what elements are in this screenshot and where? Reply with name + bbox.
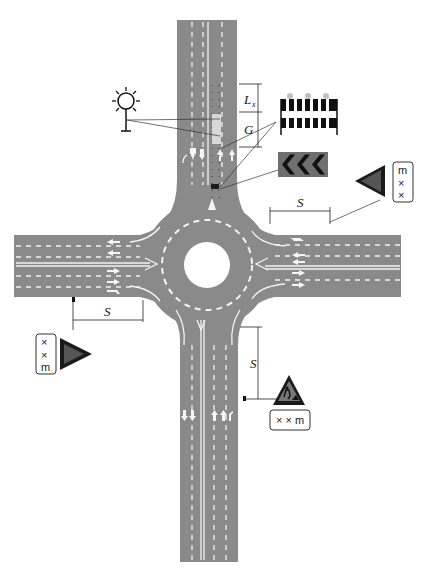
distance-plate-right: m × × bbox=[393, 162, 413, 202]
work-vehicle bbox=[212, 114, 221, 144]
plate-right-char-1: m bbox=[398, 164, 407, 176]
distance-plate-left: × × m bbox=[36, 334, 56, 374]
plate-left-char-2: × bbox=[41, 349, 47, 361]
lx-subscript: x bbox=[251, 100, 256, 109]
distance-plate-bottom: × × m bbox=[270, 410, 310, 430]
dimension-s-bottom bbox=[240, 327, 280, 401]
plate-left-char-3: m bbox=[41, 361, 50, 373]
sign-post-marker bbox=[211, 184, 219, 189]
plate-right-char-3: × bbox=[398, 189, 404, 201]
roadwork-warning-sign-icon bbox=[273, 375, 305, 405]
g-label: G bbox=[244, 122, 254, 137]
plate-left-char-1: × bbox=[41, 336, 47, 348]
roadwork-warning-sign-left bbox=[60, 338, 92, 370]
warning-light-icon bbox=[112, 87, 140, 131]
plate-bottom-text: × × m bbox=[276, 414, 304, 426]
plate-right-char-2: × bbox=[398, 177, 404, 189]
center-island bbox=[184, 242, 230, 288]
lx-label: L bbox=[243, 92, 251, 107]
s-label-top-right: S bbox=[297, 195, 304, 210]
s-label-left: S bbox=[104, 304, 111, 319]
road-barrier-icon bbox=[281, 93, 337, 135]
roadwork-warning-sign-right bbox=[355, 165, 385, 197]
roundabout-diagram: L x G S m × × S × × m bbox=[0, 0, 431, 577]
chevron-direction-board-icon bbox=[278, 152, 328, 177]
s-label-bottom: S bbox=[250, 356, 257, 371]
